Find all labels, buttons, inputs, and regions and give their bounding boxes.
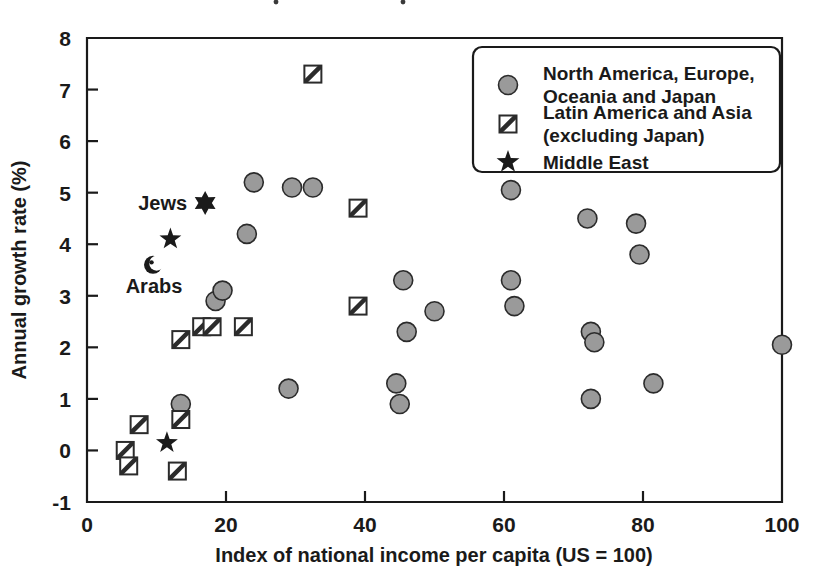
data-point-circle <box>237 224 256 243</box>
data-point-square <box>304 66 321 83</box>
crescent-dot <box>149 260 153 264</box>
data-point-circle <box>501 271 520 290</box>
data-point-circle <box>213 281 232 300</box>
data-point-circle <box>578 209 597 228</box>
series-north-america-europe-oceania-japan <box>171 173 791 414</box>
cropped-title-remnant <box>274 0 406 4</box>
data-point-square <box>120 457 137 474</box>
data-point-circle <box>394 271 413 290</box>
y-tick-label: 8 <box>59 27 71 50</box>
y-tick-label: 0 <box>59 439 71 462</box>
data-point-circle <box>505 297 524 316</box>
legend-label-line2: (excluding Japan) <box>543 125 705 146</box>
y-axis-title: Annual growth rate (%) <box>8 161 30 380</box>
data-point-circle <box>581 389 600 408</box>
data-point-square <box>350 298 367 315</box>
data-point-square <box>169 463 186 480</box>
legend-label-line1: North America, Europe, <box>543 63 755 84</box>
x-tick-label: 20 <box>214 513 237 536</box>
data-point-circle <box>397 322 416 341</box>
x-axis-ticks: 020406080100 <box>81 491 799 536</box>
annotation-label-jews: Jews <box>138 192 187 214</box>
data-point-square <box>350 200 367 217</box>
x-tick-label: 0 <box>81 513 93 536</box>
y-tick-label: -1 <box>52 491 71 514</box>
x-tick-label: 80 <box>631 513 654 536</box>
data-point-circle <box>387 374 406 393</box>
annotation-label-arabs: Arabs <box>126 275 183 297</box>
y-tick-label: 1 <box>59 388 71 411</box>
data-point-star <box>156 431 178 452</box>
data-point-square <box>131 416 148 433</box>
data-point-square <box>500 116 517 133</box>
y-tick-label: 7 <box>59 79 71 102</box>
data-point-circle <box>303 178 322 197</box>
x-tick-label: 60 <box>492 513 515 536</box>
data-point-circle <box>279 379 298 398</box>
y-tick-label: 3 <box>59 285 71 308</box>
data-point-circle <box>244 173 263 192</box>
plot-svg: -1012345678 020406080100 Index of nation… <box>0 0 821 584</box>
data-point-circle <box>773 335 792 354</box>
data-point-square <box>172 411 189 428</box>
data-point-square <box>204 318 221 335</box>
legend-label-line1: Middle East <box>543 152 649 173</box>
data-point-circle <box>585 333 604 352</box>
x-tick-label: 100 <box>764 513 799 536</box>
data-point-star <box>159 228 181 249</box>
legend: North America, Europe,Oceania and JapanL… <box>473 47 780 173</box>
y-tick-label: 6 <box>59 130 71 153</box>
data-point-circle <box>499 76 518 95</box>
data-point-circle <box>627 214 646 233</box>
data-point-circle <box>501 181 520 200</box>
data-point-circle <box>390 395 409 414</box>
data-point-square <box>172 331 189 348</box>
x-tick-label: 40 <box>353 513 376 536</box>
data-point-circle <box>630 245 649 264</box>
star-and-crescent-icon <box>144 256 162 274</box>
star-of-david-icon <box>195 191 216 215</box>
data-point-circle <box>283 178 302 197</box>
y-tick-label: 5 <box>59 182 71 205</box>
data-point-circle <box>644 374 663 393</box>
data-point-square <box>117 442 134 459</box>
annotation-group: JewsArabs <box>126 191 216 297</box>
scatter-chart-figure: -1012345678 020406080100 Index of nation… <box>0 0 821 584</box>
data-point-square <box>235 318 252 335</box>
x-axis-title: Index of national income per capita (US … <box>215 544 652 566</box>
y-tick-label: 4 <box>59 233 71 256</box>
y-tick-label: 2 <box>59 336 71 359</box>
legend-label-line1: Latin America and Asia <box>543 102 752 123</box>
data-point-circle <box>425 302 444 321</box>
y-axis-ticks: -1012345678 <box>52 27 98 514</box>
